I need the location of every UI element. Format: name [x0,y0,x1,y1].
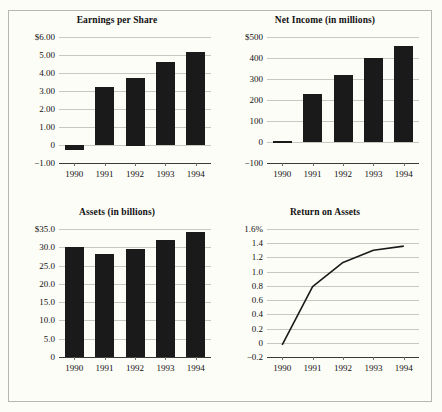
y-axis-tick-label: 5.0 [15,335,55,344]
y-axis-tick-label: 10.0 [15,316,55,325]
x-axis-tick-label: 1994 [384,364,424,373]
y-axis-tick-label: 1.2 [223,253,263,262]
gridline [267,37,419,38]
y-axis-tick-label: 3.00 [15,87,55,96]
y-axis-tick-label: 25.0 [15,262,55,271]
x-axis-tick-mark [282,357,283,360]
x-axis-tick-mark [313,357,314,360]
x-axis-tick-mark [74,163,75,166]
y-axis-tick-label: 400 [223,54,263,63]
y-axis-tick-label: −0.2 [223,353,263,362]
x-axis-tick-mark [165,357,166,360]
x-axis-tick-mark [373,163,374,166]
y-axis-tick-label: 20.0 [15,280,55,289]
y-axis-tick-label: 0 [15,353,55,362]
x-axis-tick-mark [165,163,166,166]
y-axis-tick-label: $6.00 [15,33,55,42]
y-axis-tick-label: 1.00 [15,123,55,132]
y-axis-tick-label: 1.0 [223,268,263,277]
plot-area: $5004003002001000−1001990199119921993199… [267,37,419,163]
y-axis-tick-label: 15.0 [15,298,55,307]
x-axis-tick-mark [373,357,374,360]
bar [364,58,383,142]
x-axis-tick-mark [135,357,136,360]
x-axis-tick-label: 1994 [384,170,424,179]
bar [126,249,145,357]
gridline [59,37,211,38]
y-axis-tick-label: 0.8 [223,282,263,291]
x-axis-tick-mark [343,163,344,166]
bar [186,52,205,145]
y-axis-tick-label: 0 [15,141,55,150]
bar [156,62,175,145]
plot-area: 1.6%1.41.21.00.80.60.40.20−0.21990199119… [267,229,419,357]
bar [303,94,322,142]
x-axis-tick-mark [74,357,75,360]
x-axis-tick-mark [135,163,136,166]
plot-area: $6.005.004.003.002.001.000−1.00199019911… [59,37,211,163]
plot-area: $35.030.025.020.015.010.05.0019901991199… [59,229,211,357]
x-axis-tick-mark [196,163,197,166]
y-axis-tick-label: 300 [223,75,263,84]
bar [394,46,413,142]
y-axis-tick-label: 4.00 [15,69,55,78]
y-axis-tick-label: 5.00 [15,51,55,60]
chart-title: Earnings per Share [13,15,221,25]
y-axis-tick-label: $500 [223,33,263,42]
y-axis-tick-label: 100 [223,117,263,126]
x-axis-tick-mark [343,357,344,360]
y-axis-tick-label: −100 [223,159,263,168]
chart-panel-assets: Assets (in billions) $35.030.025.020.015… [13,207,221,399]
y-axis-tick-label: 2.00 [15,105,55,114]
gridline [59,229,211,230]
y-axis-tick-label: 1.6% [223,225,263,234]
y-axis-tick-label: 0 [223,339,263,348]
line-series [267,229,419,357]
y-axis-tick-label: $35.0 [15,225,55,234]
x-axis-tick-mark [196,357,197,360]
chart-title: Net Income (in millions) [221,15,429,25]
y-axis-tick-label: 200 [223,96,263,105]
chart-panel-net-income: Net Income (in millions) $50040030020010… [221,15,429,203]
x-axis-tick-mark [105,357,106,360]
y-axis-tick-label: 0 [223,138,263,147]
y-axis-tick-label: 0.4 [223,310,263,319]
x-axis-tick-mark [105,163,106,166]
bar [186,232,205,357]
y-axis-tick-label: 0.2 [223,325,263,334]
chart-panel-earnings-per-share: Earnings per Share $6.005.004.003.002.00… [13,15,221,203]
bar [95,254,114,357]
bar [126,78,145,146]
y-axis-tick-label: 1.4 [223,239,263,248]
x-axis-tick-mark [404,163,405,166]
y-axis-tick-label: 0.6 [223,296,263,305]
x-axis-tick-label: 1994 [176,170,216,179]
charts-sheet: Earnings per Share $6.005.004.003.002.00… [8,10,432,402]
y-axis-tick-label: −1.00 [15,159,55,168]
bar [273,141,292,143]
bar [65,145,84,150]
bar [65,247,84,357]
x-axis-tick-mark [404,357,405,360]
chart-title: Assets (in billions) [13,207,221,217]
x-axis-tick-mark [313,163,314,166]
chart-panel-return-on-assets: Return on Assets 1.6%1.41.21.00.80.60.40… [221,207,429,399]
chart-title: Return on Assets [221,207,429,217]
x-axis-tick-mark [282,163,283,166]
bar [95,87,114,145]
y-axis-tick-label: 30.0 [15,243,55,252]
x-axis-tick-label: 1994 [176,364,216,373]
bar [156,240,175,357]
bar [334,75,353,142]
